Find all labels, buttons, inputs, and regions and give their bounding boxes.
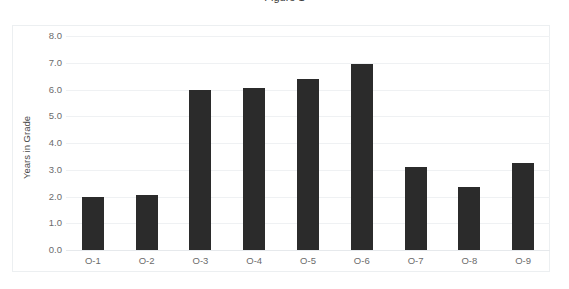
x-tick-label: O-5: [282, 256, 334, 266]
y-tick-label: 6.0: [26, 85, 62, 95]
x-tick-label: O-6: [336, 256, 388, 266]
bar: [458, 187, 480, 250]
x-tick-label: O-3: [174, 256, 226, 266]
y-tick-label: 3.0: [26, 165, 62, 175]
gridline: [66, 250, 550, 251]
bar: [405, 167, 427, 250]
x-tick-label: O-1: [67, 256, 119, 266]
bar: [243, 88, 265, 250]
y-tick-label: 7.0: [26, 58, 62, 68]
x-tick-label: O-9: [497, 256, 549, 266]
y-tick-label: 8.0: [26, 31, 62, 41]
x-tick-label: O-4: [228, 256, 280, 266]
chart-title-text: Figure 1: [0, 0, 569, 3]
y-tick-label: 5.0: [26, 112, 62, 122]
x-tick-label: O-8: [443, 256, 495, 266]
x-axis-tick-labels: O-1O-2O-3O-4O-5O-6O-7O-8O-9: [66, 256, 550, 272]
y-tick-label: 2.0: [26, 192, 62, 202]
x-tick-label: O-7: [390, 256, 442, 266]
bar: [297, 79, 319, 250]
y-tick-label: 0.0: [26, 245, 62, 255]
bar: [82, 197, 104, 251]
y-tick-label: 4.0: [26, 138, 62, 148]
bar: [136, 195, 158, 250]
clipped-chart-title: Figure 1: [0, 0, 569, 7]
bar: [351, 64, 373, 250]
x-tick-label: O-2: [121, 256, 173, 266]
bar: [189, 90, 211, 251]
bar-series: [66, 36, 550, 250]
y-tick-label: 1.0: [26, 219, 62, 229]
bar: [512, 163, 534, 250]
y-axis-tick-labels: 8.07.06.05.04.03.02.01.00.0: [22, 36, 62, 250]
